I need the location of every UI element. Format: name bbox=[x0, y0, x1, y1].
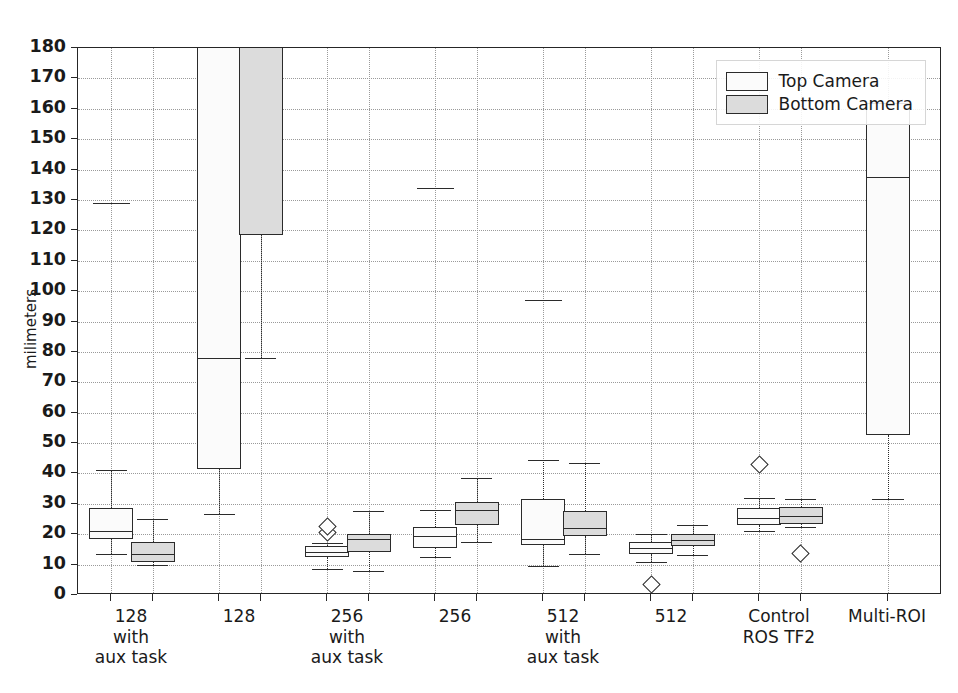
outlier-marker-top-camera-3 bbox=[417, 188, 454, 189]
whisker-cap-upper-bottom-camera-2 bbox=[353, 511, 385, 512]
x-tick-mark bbox=[218, 594, 219, 601]
whisker-cap-upper-top-camera-0 bbox=[96, 470, 128, 471]
whisker-lower-bottom-camera-3 bbox=[477, 525, 478, 542]
outlier-marker-top-camera-4 bbox=[525, 300, 562, 301]
gridline bbox=[78, 473, 940, 474]
median-line-top-camera-1 bbox=[197, 358, 241, 359]
x-tick-mark bbox=[260, 594, 261, 601]
median-line-bottom-camera-0 bbox=[131, 554, 175, 555]
y-tick-label: 150 bbox=[8, 129, 66, 147]
whisker-lower-top-camera-0 bbox=[111, 539, 112, 554]
whisker-upper-bottom-camera-6 bbox=[801, 499, 802, 507]
whisker-cap-upper-top-camera-5 bbox=[636, 534, 668, 535]
gridline bbox=[693, 48, 694, 593]
whisker-lower-bottom-camera-5 bbox=[693, 546, 694, 555]
whisker-upper-bottom-camera-4 bbox=[585, 463, 586, 512]
legend-item-bottom-camera: Bottom Camera bbox=[726, 94, 913, 114]
whisker-upper-top-camera-6 bbox=[759, 498, 760, 509]
x-tick-label: Multi-ROI bbox=[812, 606, 958, 627]
box-plot-figure: milimeters 01020304050607080901001101201… bbox=[0, 0, 958, 693]
legend-swatch-bottom-camera bbox=[726, 95, 768, 114]
box-bottom-camera-2 bbox=[347, 534, 391, 552]
whisker-cap-upper-top-camera-4 bbox=[528, 460, 560, 461]
y-tick-label: 50 bbox=[8, 433, 66, 451]
median-line-top-camera-4 bbox=[521, 539, 565, 540]
plot-area: Top Camera Bottom Camera bbox=[77, 47, 941, 594]
whisker-lower-top-camera-5 bbox=[651, 554, 652, 562]
y-tick-label: 0 bbox=[8, 585, 66, 603]
y-tick-label: 60 bbox=[8, 403, 66, 421]
median-line-top-camera-2 bbox=[305, 552, 349, 553]
y-tick-label: 90 bbox=[8, 312, 66, 330]
y-tick-label: 180 bbox=[8, 38, 66, 56]
whisker-upper-top-camera-5 bbox=[651, 534, 652, 542]
x-tick-mark bbox=[152, 594, 153, 601]
whisker-lower-bottom-camera-4 bbox=[585, 536, 586, 554]
y-tick-mark bbox=[71, 594, 77, 595]
gridline bbox=[78, 565, 940, 566]
y-tick-label: 70 bbox=[8, 372, 66, 390]
box-bottom-camera-3 bbox=[455, 502, 499, 525]
whisker-lower-top-camera-1 bbox=[219, 469, 220, 515]
gridline bbox=[153, 48, 154, 593]
y-tick-label: 20 bbox=[8, 524, 66, 542]
whisker-cap-lower-top-camera-6 bbox=[744, 531, 776, 532]
median-line-top-camera-6 bbox=[737, 518, 781, 519]
box-top-camera-3 bbox=[413, 527, 457, 548]
whisker-lower-top-camera-4 bbox=[543, 545, 544, 566]
whisker-lower-bottom-camera-2 bbox=[369, 552, 370, 570]
gridline bbox=[78, 504, 940, 505]
y-tick-label: 120 bbox=[8, 220, 66, 238]
whisker-cap-upper-bottom-camera-5 bbox=[677, 525, 709, 526]
whisker-upper-top-camera-4 bbox=[543, 460, 544, 500]
whisker-cap-lower-bottom-camera-5 bbox=[677, 555, 709, 556]
x-tick-mark bbox=[692, 594, 693, 601]
x-tick-mark bbox=[800, 594, 801, 601]
median-line-top-camera-5 bbox=[629, 548, 673, 549]
x-tick-mark bbox=[887, 594, 888, 601]
whisker-cap-upper-bottom-camera-6 bbox=[785, 499, 817, 500]
y-tick-label: 160 bbox=[8, 99, 66, 117]
box-top-camera-0 bbox=[89, 508, 133, 538]
gridline bbox=[651, 48, 652, 593]
whisker-lower-top-camera-3 bbox=[435, 548, 436, 557]
y-tick-label: 80 bbox=[8, 342, 66, 360]
x-tick-mark bbox=[476, 594, 477, 601]
x-tick-mark bbox=[326, 594, 327, 601]
y-tick-label: 170 bbox=[8, 68, 66, 86]
y-tick-label: 40 bbox=[8, 463, 66, 481]
whisker-cap-upper-top-camera-6 bbox=[744, 498, 776, 499]
x-tick-mark bbox=[434, 594, 435, 601]
x-tick-mark bbox=[110, 594, 111, 601]
whisker-upper-bottom-camera-3 bbox=[477, 478, 478, 502]
y-tick-label: 100 bbox=[8, 281, 66, 299]
outlier-marker-bottom-camera-6 bbox=[791, 545, 809, 563]
y-tick-label: 10 bbox=[8, 555, 66, 573]
whisker-cap-lower-top-camera-3 bbox=[420, 557, 452, 558]
whisker-upper-top-camera-3 bbox=[435, 510, 436, 527]
whisker-cap-lower-top-camera-7 bbox=[872, 499, 904, 500]
x-tick-mark bbox=[584, 594, 585, 601]
x-tick-mark bbox=[542, 594, 543, 601]
y-tick-label: 110 bbox=[8, 251, 66, 269]
gridline bbox=[78, 534, 940, 535]
legend-swatch-top-camera bbox=[726, 72, 768, 91]
x-tick-mark bbox=[368, 594, 369, 601]
whisker-lower-top-camera-2 bbox=[327, 557, 328, 569]
whisker-cap-upper-bottom-camera-0 bbox=[137, 519, 169, 520]
legend-label-top-camera: Top Camera bbox=[779, 71, 880, 91]
gridline bbox=[327, 48, 328, 593]
whisker-cap-upper-top-camera-2 bbox=[312, 543, 344, 544]
box-top-camera-7 bbox=[866, 103, 910, 436]
whisker-cap-lower-top-camera-4 bbox=[528, 566, 560, 567]
median-line-bottom-camera-6 bbox=[779, 516, 823, 517]
legend-label-bottom-camera: Bottom Camera bbox=[779, 94, 913, 114]
x-tick-mark bbox=[650, 594, 651, 601]
median-line-bottom-camera-2 bbox=[347, 539, 391, 540]
outlier-marker-top-camera-6 bbox=[750, 455, 768, 473]
whisker-cap-upper-bottom-camera-3 bbox=[461, 478, 493, 479]
whisker-upper-bottom-camera-2 bbox=[369, 511, 370, 534]
whisker-cap-upper-top-camera-3 bbox=[420, 510, 452, 511]
whisker-upper-bottom-camera-5 bbox=[693, 525, 694, 534]
whisker-cap-lower-bottom-camera-6 bbox=[785, 527, 817, 528]
